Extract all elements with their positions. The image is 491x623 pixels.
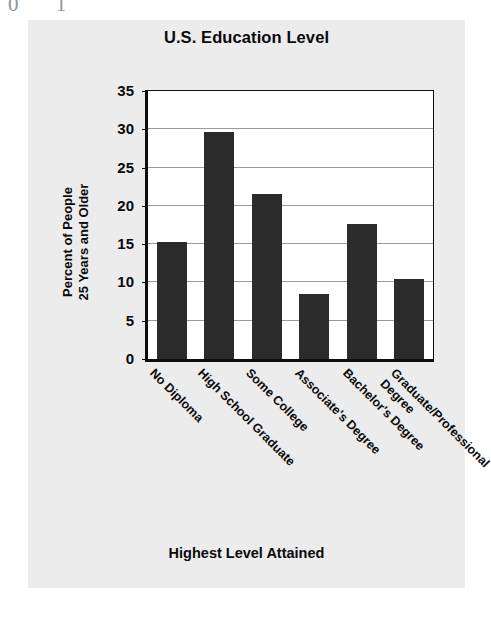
bar	[157, 242, 187, 359]
y-axis-tick-label: 10	[96, 273, 134, 290]
x-axis-tick-labels: No DiplomaHigh School GraduateSome Colle…	[145, 366, 434, 516]
bar	[299, 294, 329, 359]
x-axis-tick-label: Associate's Degree	[291, 366, 383, 458]
bar	[347, 224, 377, 359]
y-axis-tick-label: 20	[96, 196, 134, 213]
y-axis-tick-label: 0	[96, 350, 134, 367]
chart-title: U.S. Education Level	[28, 28, 465, 47]
x-axis-title: Highest Level Attained	[28, 545, 465, 561]
y-axis-tick-mark	[142, 206, 148, 207]
y-axis-title-line-1: Percent of People	[60, 127, 76, 357]
y-axis-tick-label: 35	[96, 82, 134, 99]
y-axis-tick-mark	[142, 244, 148, 245]
bar-series	[148, 91, 433, 359]
bar	[394, 279, 424, 359]
plot-area	[145, 90, 434, 362]
bar	[252, 194, 282, 359]
y-axis-tick-labels: 05101520253035	[96, 82, 134, 362]
y-axis-tick-mark	[142, 168, 148, 169]
y-axis-tick-mark	[142, 359, 148, 360]
y-axis-tick-label: 30	[96, 120, 134, 137]
scan-artifact-text: 0 1	[8, 0, 82, 17]
y-axis-title: Percent of People 25 Years and Older	[60, 127, 92, 357]
y-axis-tick-label: 25	[96, 158, 134, 175]
y-axis-tick-mark	[142, 91, 148, 92]
y-axis-tick-mark	[142, 129, 148, 130]
x-axis-tick-label-line: Associate's Degree	[291, 366, 383, 458]
y-axis-tick-label: 15	[96, 235, 134, 252]
y-axis-tick-mark	[142, 282, 148, 283]
y-axis-tick-label: 5	[96, 311, 134, 328]
y-axis-tick-mark	[142, 321, 148, 322]
y-axis-title-line-2: 25 Years and Older	[76, 127, 92, 357]
bar	[204, 132, 234, 359]
